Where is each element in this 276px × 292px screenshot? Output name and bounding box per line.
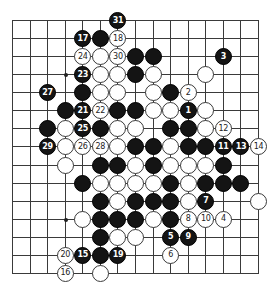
star-point: [64, 73, 68, 77]
black-stone: [127, 48, 144, 65]
white-stone: [57, 157, 74, 174]
black-stone-31: 31: [109, 12, 126, 29]
white-stone: [92, 84, 109, 101]
white-stone-16: 16: [57, 265, 74, 282]
white-stone: [92, 175, 109, 192]
white-stone: [109, 175, 126, 192]
white-stone: [145, 84, 162, 101]
white-stone-30: 30: [109, 48, 126, 65]
black-stone: [197, 175, 214, 192]
white-stone-28: 28: [92, 138, 109, 155]
black-stone-13: 13: [232, 138, 249, 155]
white-stone-6: 6: [162, 247, 179, 264]
white-stone-8: 8: [180, 211, 197, 228]
white-stone: [180, 175, 197, 192]
white-stone-10: 10: [197, 211, 214, 228]
white-stone-22: 22: [92, 102, 109, 119]
black-stone-23: 23: [74, 66, 91, 83]
white-stone: [145, 66, 162, 83]
black-stone-7: 7: [197, 193, 214, 210]
white-stone: [109, 193, 126, 210]
black-stone: [92, 157, 109, 174]
black-stone: [109, 102, 126, 119]
black-stone-19: 19: [109, 247, 126, 264]
black-stone: [57, 102, 74, 119]
white-stone: [109, 66, 126, 83]
white-stone-20: 20: [57, 247, 74, 264]
black-stone-15: 15: [74, 247, 91, 264]
white-stone: [162, 102, 179, 119]
black-stone: [145, 138, 162, 155]
white-stone: [127, 157, 144, 174]
black-stone-3: 3: [215, 48, 232, 65]
black-stone: [127, 193, 144, 210]
white-stone: [162, 157, 179, 174]
black-stone: [180, 120, 197, 137]
white-stone: [57, 120, 74, 137]
black-stone: [180, 138, 197, 155]
white-stone: [92, 265, 109, 282]
white-stone: [197, 66, 214, 83]
white-stone: [57, 138, 74, 155]
go-board-diagram: 3117182430323272212212512292628111314781…: [0, 0, 276, 292]
black-stone-21: 21: [74, 102, 91, 119]
white-stone: [180, 193, 197, 210]
white-stone: [145, 102, 162, 119]
black-stone: [109, 157, 126, 174]
grid-line-vertical: [30, 20, 31, 274]
white-stone-14: 14: [250, 138, 267, 155]
black-stone-29: 29: [39, 138, 56, 155]
white-stone: [109, 138, 126, 155]
black-stone: [74, 175, 91, 192]
white-stone-12: 12: [215, 120, 232, 137]
black-stone: [127, 138, 144, 155]
white-stone: [127, 120, 144, 137]
white-stone-2: 2: [180, 84, 197, 101]
grid-line-vertical: [12, 20, 13, 274]
black-stone-17: 17: [74, 30, 91, 47]
black-stone: [215, 175, 232, 192]
white-stone-24: 24: [74, 48, 91, 65]
white-stone: [127, 175, 144, 192]
black-stone: [162, 211, 179, 228]
white-stone-4: 4: [215, 211, 232, 228]
black-stone: [74, 84, 91, 101]
black-stone: [215, 157, 232, 174]
black-stone: [92, 211, 109, 228]
black-stone-27: 27: [39, 84, 56, 101]
white-stone: [250, 193, 267, 210]
black-stone-9: 9: [180, 229, 197, 246]
black-stone: [145, 48, 162, 65]
white-stone: [92, 48, 109, 65]
black-stone: [145, 193, 162, 210]
white-stone-26: 26: [74, 138, 91, 155]
white-stone: [180, 157, 197, 174]
white-stone: [162, 138, 179, 155]
black-stone-5: 5: [162, 229, 179, 246]
black-stone: [162, 120, 179, 137]
black-stone: [162, 175, 179, 192]
white-stone: [109, 229, 126, 246]
white-stone: [197, 102, 214, 119]
black-stone: [127, 211, 144, 228]
white-stone-18: 18: [109, 30, 126, 47]
black-stone: [162, 193, 179, 210]
star-point: [64, 218, 68, 222]
black-stone: [92, 30, 109, 47]
black-stone: [92, 229, 109, 246]
black-stone-25: 25: [74, 120, 91, 137]
black-stone-11: 11: [215, 138, 232, 155]
black-stone: [162, 84, 179, 101]
black-stone: [92, 247, 109, 264]
white-stone: [92, 66, 109, 83]
black-stone-1: 1: [180, 102, 197, 119]
white-stone: [197, 120, 214, 137]
black-stone: [127, 66, 144, 83]
black-stone: [92, 120, 109, 137]
white-stone: [197, 157, 214, 174]
black-stone: [232, 175, 249, 192]
white-stone: [145, 175, 162, 192]
black-stone: [145, 157, 162, 174]
black-stone: [197, 138, 214, 155]
black-stone: [127, 102, 144, 119]
